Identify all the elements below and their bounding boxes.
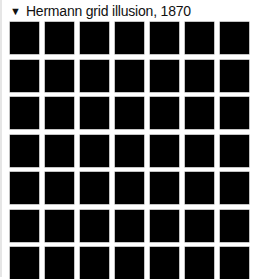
grid-square (80, 247, 109, 279)
grid-square (220, 135, 249, 167)
grid-square (150, 135, 179, 167)
grid-square (45, 135, 74, 167)
grid-square (80, 60, 109, 92)
grid-square (220, 172, 249, 204)
grid-square (115, 247, 144, 279)
grid-square (150, 172, 179, 204)
grid-square (220, 210, 249, 242)
grid-square (185, 22, 214, 54)
grid-square (80, 210, 109, 242)
grid-square (10, 22, 39, 54)
triangle-down-icon: ▼ (10, 6, 21, 17)
grid-square (45, 210, 74, 242)
grid-square (220, 247, 249, 279)
grid-square (10, 135, 39, 167)
grid-square (45, 60, 74, 92)
grid-square (45, 97, 74, 129)
grid-square (45, 247, 74, 279)
grid-square (115, 172, 144, 204)
grid-square (185, 60, 214, 92)
grid-square (45, 172, 74, 204)
grid-square (115, 210, 144, 242)
grid-square (115, 97, 144, 129)
grid-square (115, 135, 144, 167)
grid-square (150, 210, 179, 242)
grid-square (185, 210, 214, 242)
grid-square (80, 135, 109, 167)
grid-square (150, 60, 179, 92)
grid-square (10, 60, 39, 92)
left-border (0, 0, 2, 277)
grid-square (115, 22, 144, 54)
grid-square (10, 97, 39, 129)
grid-square (185, 247, 214, 279)
grid-square (45, 22, 74, 54)
grid-square (115, 60, 144, 92)
grid-square (80, 172, 109, 204)
grid-square (150, 97, 179, 129)
grid-square (185, 97, 214, 129)
section-title: Hermann grid illusion, 1870 (26, 3, 191, 19)
grid-square (150, 22, 179, 54)
grid-square (220, 22, 249, 54)
grid-square (220, 97, 249, 129)
grid-square (185, 135, 214, 167)
grid-square (220, 60, 249, 92)
grid-square (80, 97, 109, 129)
details-summary-toggle[interactable]: ▼ Hermann grid illusion, 1870 (10, 2, 191, 20)
hermann-grid (10, 22, 249, 279)
grid-square (10, 210, 39, 242)
grid-square (150, 247, 179, 279)
grid-square (10, 172, 39, 204)
grid-square (185, 172, 214, 204)
grid-square (80, 22, 109, 54)
grid-square (10, 247, 39, 279)
